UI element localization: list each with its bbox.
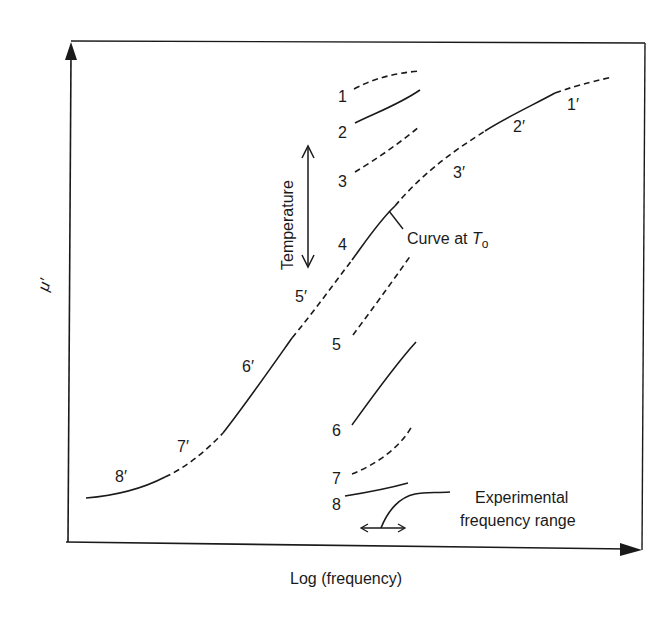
x-axis	[66, 542, 642, 556]
master-label-7p: 7′	[177, 438, 189, 455]
temperature-label: Temperature	[279, 180, 296, 270]
isotherm-7	[352, 426, 412, 474]
isotherm-1	[354, 71, 420, 89]
master-label-2p: 2′	[513, 118, 525, 135]
y-axis-label: μ′	[34, 276, 54, 294]
experimental-range-marker	[361, 492, 450, 532]
iso-label-8: 8	[332, 496, 341, 513]
isotherm-5	[353, 255, 411, 335]
experimental-range-pointer	[381, 492, 450, 528]
master-label-5p: 5′	[295, 288, 307, 305]
isotherm-8	[345, 483, 408, 496]
isotherm-curves	[345, 71, 420, 496]
y-axis	[65, 42, 77, 542]
master-segment-3p	[395, 131, 485, 206]
experimental-range-label-2: frequency range	[460, 512, 576, 529]
master-segment-7p	[165, 433, 223, 477]
x-axis-arrow-icon	[620, 543, 642, 556]
iso-label-2: 2	[338, 124, 347, 141]
master-segment-4	[352, 206, 395, 260]
iso-label-1: 1	[338, 88, 347, 105]
experimental-range-label-1: Experimental	[475, 489, 568, 506]
plot-frame	[71, 41, 645, 550]
temperature-arrow	[302, 146, 314, 267]
master-label-1p: 1′	[567, 96, 579, 113]
isotherm-3	[355, 126, 420, 172]
iso-label-6: 6	[332, 422, 341, 439]
iso-label-7: 7	[332, 470, 341, 487]
chart-canvas: Log (frequency) μ′ Temperature 1 2 3 4 5…	[0, 0, 671, 621]
master-label-6p: 6′	[242, 358, 254, 375]
y-axis-arrow-icon	[65, 42, 77, 60]
master-label-3p: 3′	[453, 164, 465, 181]
isotherm-2	[355, 90, 420, 123]
master-curve	[86, 77, 612, 498]
iso-label-4: 4	[338, 236, 347, 253]
isotherm-6	[352, 342, 416, 425]
iso-label-3: 3	[338, 173, 347, 190]
iso-label-5: 5	[332, 336, 341, 353]
master-segment-1p	[555, 77, 612, 93]
curve-at-t0-label: Curve at To	[407, 230, 489, 251]
master-segment-6p	[223, 338, 292, 433]
master-label-8p: 8′	[115, 468, 127, 485]
curve-at-t0-pointer	[389, 211, 403, 229]
x-axis-label: Log (frequency)	[290, 570, 402, 587]
